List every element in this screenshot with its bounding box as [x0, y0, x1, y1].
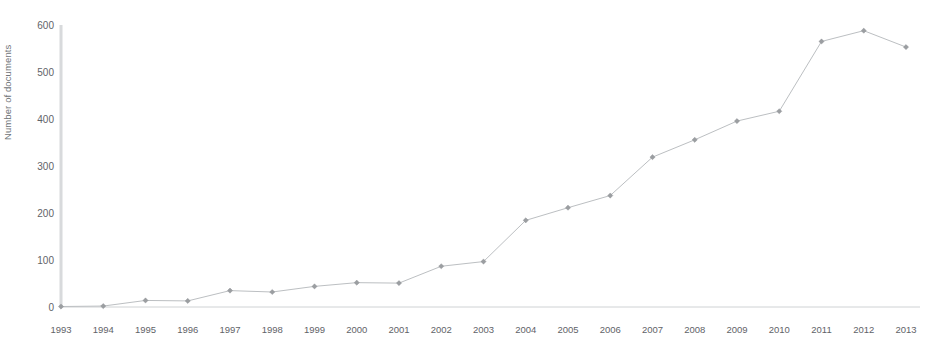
series-line-number-of-documents — [61, 31, 906, 307]
x-tick-label: 2005 — [545, 324, 591, 335]
series-marker — [734, 118, 739, 123]
x-tick-label: 2006 — [587, 324, 633, 335]
x-tick-label: 1993 — [38, 324, 84, 335]
series-marker — [692, 137, 697, 142]
x-tick-label: 2011 — [799, 324, 845, 335]
series-marker — [143, 298, 148, 303]
x-tick-label: 1994 — [80, 324, 126, 335]
plot-area — [0, 0, 928, 346]
series-marker — [185, 298, 190, 303]
x-tick-label: 2007 — [630, 324, 676, 335]
series-marker — [903, 44, 908, 49]
series-marker — [101, 303, 106, 308]
series-marker — [227, 288, 232, 293]
x-tick-label: 1999 — [292, 324, 338, 335]
series-marker — [439, 264, 444, 269]
series-marker — [396, 281, 401, 286]
series-marker — [777, 109, 782, 114]
x-tick-label: 1997 — [207, 324, 253, 335]
x-tick-label: 2012 — [841, 324, 887, 335]
x-tick-label: 2010 — [756, 324, 802, 335]
x-tick-label: 2001 — [376, 324, 422, 335]
x-tick-label: 2000 — [334, 324, 380, 335]
line-chart: Number of documents 600 500 400 300 200 … — [0, 0, 928, 346]
x-tick-label: 2003 — [461, 324, 507, 335]
series-marker — [58, 304, 63, 309]
x-tick-label: 1995 — [123, 324, 169, 335]
series-marker — [819, 39, 824, 44]
series-marker — [354, 280, 359, 285]
x-tick-label: 2013 — [883, 324, 928, 335]
series-marker — [861, 28, 866, 33]
series-marker — [565, 205, 570, 210]
series-marker — [270, 289, 275, 294]
x-tick-label: 1998 — [249, 324, 295, 335]
series-marker — [312, 284, 317, 289]
x-tick-label: 1996 — [165, 324, 211, 335]
x-tick-label: 2008 — [672, 324, 718, 335]
series-markers — [58, 28, 908, 309]
x-tick-label: 2009 — [714, 324, 760, 335]
x-tick-label: 2004 — [503, 324, 549, 335]
x-tick-label: 2002 — [418, 324, 464, 335]
